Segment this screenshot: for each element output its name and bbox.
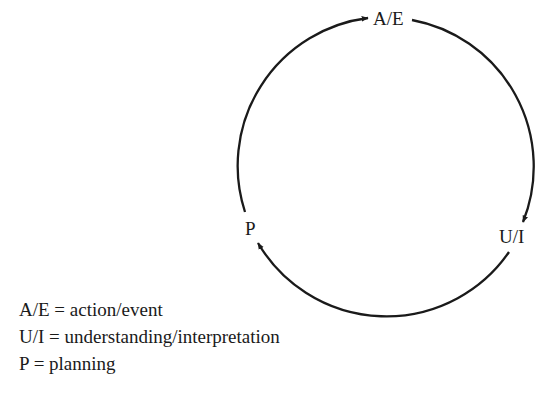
legend-row-ae: A/E = action/event [19, 296, 280, 323]
arc-ui-to-p [258, 243, 509, 316]
legend-meaning: understanding/interpretation [65, 326, 280, 347]
arc-ae-to-ui [412, 20, 534, 222]
legend-meaning: planning [49, 353, 116, 374]
legend-abbr: P [19, 353, 29, 374]
node-planning: P [245, 219, 256, 238]
legend-row-ui: U/I = understanding/interpretation [19, 323, 280, 350]
legend-row-p: P = planning [19, 350, 280, 377]
legend-equals: = [49, 326, 60, 347]
node-understanding-interpretation: U/I [499, 227, 524, 246]
legend: A/E = action/event U/I = understanding/i… [19, 296, 280, 377]
legend-equals: = [54, 299, 65, 320]
legend-abbr: A/E [19, 299, 50, 320]
arc-p-to-ae [238, 18, 368, 212]
legend-equals: = [34, 353, 45, 374]
legend-meaning: action/event [70, 299, 163, 320]
legend-abbr: U/I [19, 326, 44, 347]
node-action-event: A/E [373, 9, 404, 28]
